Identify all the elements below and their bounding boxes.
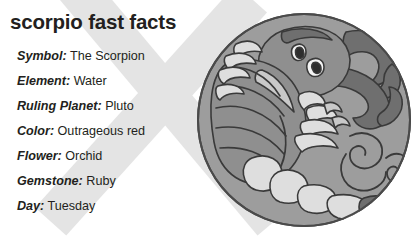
fact-value: Outrageous red	[58, 124, 146, 138]
fact-value: Orchid	[65, 149, 102, 163]
fact-label: Element:	[17, 74, 70, 88]
list-item: Ruling Planet: Pluto	[17, 94, 207, 119]
page-title: scorpio fast facts	[10, 10, 176, 34]
fact-label: Gemstone:	[17, 174, 83, 188]
scorpio-scorpion-medallion	[196, 8, 412, 232]
fact-label: Flower:	[17, 149, 62, 163]
list-item: Color: Outrageous red	[17, 119, 207, 144]
fact-value: Water	[74, 74, 107, 88]
fact-value: Ruby	[86, 174, 115, 188]
list-item: Element: Water	[17, 69, 207, 94]
fact-value: Tuesday	[48, 199, 96, 213]
fact-label: Symbol:	[17, 49, 67, 63]
pupil-right	[312, 62, 321, 73]
fact-value: Pluto	[105, 99, 134, 113]
list-item: Day: Tuesday	[17, 194, 207, 219]
fact-label: Day:	[17, 199, 44, 213]
zodiac-fact-card: scorpio fast facts Symbol: The Scorpion …	[0, 0, 416, 241]
fact-text-column: scorpio fast facts Symbol: The Scorpion …	[0, 0, 200, 241]
list-item: Gemstone: Ruby	[17, 169, 207, 194]
fact-value: The Scorpion	[70, 49, 145, 63]
list-item: Symbol: The Scorpion	[17, 44, 207, 69]
fact-list: Symbol: The Scorpion Element: Water Ruli…	[17, 44, 207, 219]
fact-label: Color:	[17, 124, 54, 138]
list-item: Flower: Orchid	[17, 144, 207, 169]
pupil-left	[296, 47, 305, 58]
fact-label: Ruling Planet:	[17, 99, 102, 113]
